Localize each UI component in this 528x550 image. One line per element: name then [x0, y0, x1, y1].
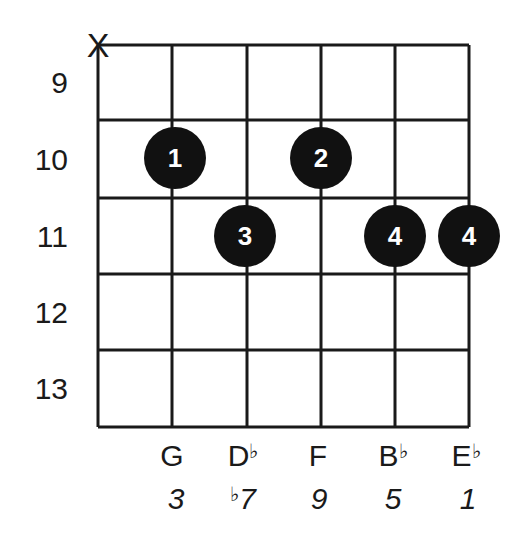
chord-diagram: X 9 10 11 12 13 1 2 3 4 4 G D♭	[0, 0, 528, 550]
svg-text:4: 4	[388, 221, 403, 251]
interval-label: 9	[311, 482, 328, 515]
fret-number: 9	[51, 66, 68, 99]
note-name: F	[309, 439, 327, 472]
fret-number: 11	[37, 220, 68, 253]
intervals: 3 ♭7 9 5 1	[168, 482, 477, 515]
note-name: E♭	[451, 439, 480, 472]
interval-label: 5	[385, 482, 402, 515]
svg-text:1: 1	[168, 143, 182, 173]
note-names: G D♭ F B♭ E♭	[160, 439, 480, 472]
svg-text:2: 2	[314, 143, 328, 173]
svg-text:4: 4	[462, 221, 477, 251]
fret-number: 13	[35, 372, 68, 405]
finger-dot: 3	[214, 205, 276, 267]
muted-string-marker: X	[87, 26, 110, 64]
interval-label: 1	[460, 482, 477, 515]
svg-text:3: 3	[238, 221, 252, 251]
interval-label: ♭7	[230, 482, 257, 515]
fret-number: 12	[35, 296, 68, 329]
note-name: D♭	[228, 439, 259, 472]
finger-dot: 1	[144, 127, 206, 189]
finger-dot: 4	[364, 205, 426, 267]
finger-dot: 4	[438, 205, 500, 267]
note-name: B♭	[378, 439, 407, 472]
interval-label: 3	[168, 482, 185, 515]
finger-dot: 2	[290, 127, 352, 189]
fret-numbers: 9 10 11 12 13	[35, 66, 68, 405]
note-name: G	[160, 439, 183, 472]
fret-number: 10	[35, 143, 68, 176]
